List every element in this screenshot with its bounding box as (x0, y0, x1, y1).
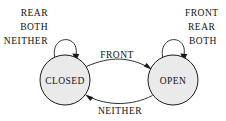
closed-self-loop-label-2: NEITHER (4, 36, 48, 46)
open-self-loop-label-2: BOTH (189, 36, 217, 46)
transition-closed-to-open-path (87, 59, 149, 67)
transition-closed-to-open-label: FRONT (100, 50, 134, 60)
closed-self-loop-labels: REAR BOTH NEITHER (4, 8, 48, 46)
transition-closed-to-open (87, 59, 153, 70)
state-diagram: CLOSED OPEN REAR BOTH NEITHER FRONT REAR… (0, 0, 226, 121)
state-open-label: OPEN (160, 76, 186, 86)
open-self-loop-labels: FRONT REAR BOTH (185, 8, 219, 46)
transition-open-to-closed-label: NEITHER (98, 106, 142, 116)
closed-self-loop-label-0: REAR (21, 8, 49, 18)
transition-open-to-closed (85, 94, 153, 103)
state-machine-canvas: CLOSED OPEN REAR BOTH NEITHER FRONT REAR… (0, 0, 226, 121)
state-closed[interactable]: CLOSED (40, 55, 90, 105)
state-open[interactable]: OPEN (148, 55, 198, 105)
closed-self-loop-label-1: BOTH (20, 22, 48, 32)
state-closed-label: CLOSED (45, 76, 84, 86)
transition-open-to-closed-arrowhead (85, 94, 93, 101)
transition-open-to-closed-path (89, 96, 153, 104)
open-self-loop-label-1: REAR (188, 22, 216, 32)
open-self-loop-label-0: FRONT (185, 8, 219, 18)
